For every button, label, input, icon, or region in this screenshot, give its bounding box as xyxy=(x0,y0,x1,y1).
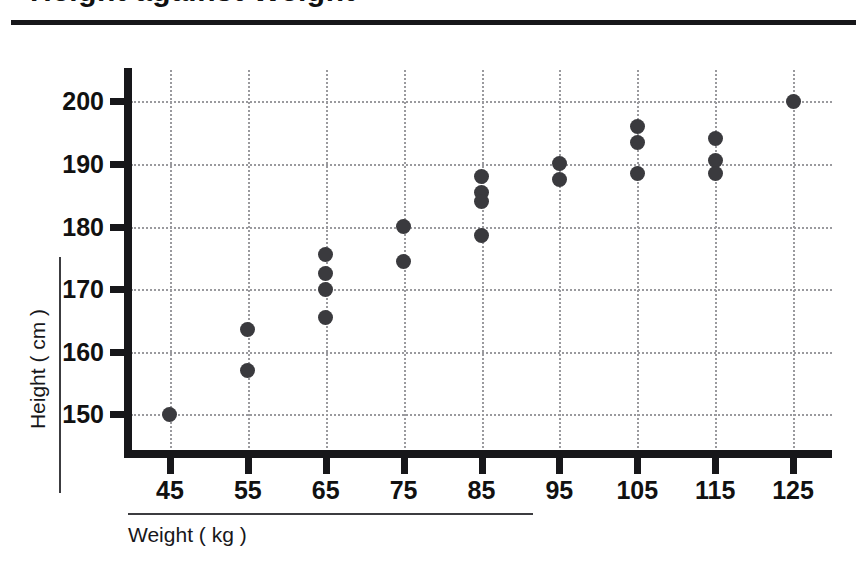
data-point xyxy=(474,169,489,184)
data-point xyxy=(396,219,411,234)
gridline-vertical xyxy=(793,70,795,452)
data-point xyxy=(630,166,645,181)
x-axis-tick xyxy=(323,458,330,474)
x-axis-tick xyxy=(790,458,797,474)
data-point xyxy=(786,94,801,109)
data-point xyxy=(474,194,489,209)
x-axis-tick-label: 75 xyxy=(364,478,444,503)
gridline-vertical xyxy=(482,70,484,452)
y-axis-tick xyxy=(110,286,125,293)
y-axis-tick-label: 160 xyxy=(34,340,104,365)
x-axis-title: Weight ( kg ) xyxy=(128,523,247,547)
x-axis-tick-label: 45 xyxy=(130,478,210,503)
data-point xyxy=(318,266,333,281)
y-axis-tick xyxy=(110,161,125,168)
data-point xyxy=(708,166,723,181)
y-axis-tick xyxy=(110,411,125,418)
x-axis-tick xyxy=(245,458,252,474)
x-axis-tick-label: 85 xyxy=(442,478,522,503)
y-axis-tick-label: 150 xyxy=(34,402,104,427)
scatter-plot: Height ( cm ) Weight ( kg ) 150160170180… xyxy=(0,0,867,565)
y-axis-title-group: Height ( cm ) xyxy=(14,295,62,455)
y-axis-tick xyxy=(110,224,125,231)
data-point xyxy=(630,119,645,134)
gridline-vertical xyxy=(248,70,250,452)
data-point xyxy=(318,310,333,325)
data-point xyxy=(552,172,567,187)
data-point xyxy=(318,247,333,262)
x-axis-tick xyxy=(479,458,486,474)
data-point xyxy=(318,282,333,297)
gridline-vertical xyxy=(170,70,172,452)
x-axis-tick-label: 65 xyxy=(286,478,366,503)
x-axis-tick-label: 55 xyxy=(208,478,288,503)
data-point xyxy=(240,322,255,337)
data-point xyxy=(630,135,645,150)
x-axis-tick-label: 105 xyxy=(597,478,677,503)
x-axis-tick xyxy=(167,458,174,474)
data-point xyxy=(396,254,411,269)
data-point xyxy=(474,228,489,243)
x-axis-tick-label: 125 xyxy=(753,478,833,503)
x-axis-title-rule xyxy=(128,513,533,515)
plot-area xyxy=(131,70,832,452)
y-axis-tick-label: 200 xyxy=(34,89,104,114)
data-point xyxy=(162,407,177,422)
data-point xyxy=(240,363,255,378)
x-axis-tick-label: 95 xyxy=(519,478,599,503)
x-axis-tick xyxy=(401,458,408,474)
y-axis-tick xyxy=(110,349,125,356)
data-point xyxy=(708,131,723,146)
y-axis-line xyxy=(124,68,132,458)
y-axis-tick-label: 180 xyxy=(34,215,104,240)
x-axis-tick xyxy=(556,458,563,474)
y-axis-tick-label: 190 xyxy=(34,152,104,177)
x-axis-tick xyxy=(712,458,719,474)
gridline-vertical xyxy=(715,70,717,452)
data-point xyxy=(552,156,567,171)
x-axis-tick xyxy=(634,458,641,474)
x-axis-tick-label: 115 xyxy=(675,478,755,503)
y-axis-tick-label: 170 xyxy=(34,277,104,302)
y-axis-tick xyxy=(110,98,125,105)
x-axis-line xyxy=(124,450,832,458)
gridline-vertical xyxy=(559,70,561,452)
